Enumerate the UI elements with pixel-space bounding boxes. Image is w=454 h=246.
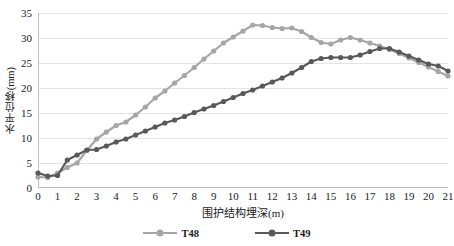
x-axis-tick-label: 0	[35, 190, 41, 202]
data-point	[153, 95, 158, 100]
data-point	[172, 117, 177, 122]
data-point	[250, 22, 255, 27]
x-axis-tick-label: 17	[364, 190, 375, 202]
series-line	[38, 49, 448, 177]
data-point	[231, 34, 236, 39]
data-point	[436, 63, 441, 68]
data-point	[416, 57, 421, 62]
data-point	[319, 56, 324, 61]
data-point	[358, 37, 363, 42]
y-axis-tick-label: 25	[21, 58, 32, 69]
legend-item-T49[interactable]: T49	[255, 228, 311, 239]
data-point	[436, 69, 441, 74]
data-point	[270, 79, 275, 84]
y-axis-tick-label: 5	[27, 158, 33, 169]
data-point	[289, 70, 294, 75]
data-point	[299, 29, 304, 34]
data-point	[260, 23, 265, 28]
legend-label: T48	[181, 228, 199, 239]
data-point	[348, 55, 353, 60]
data-point	[377, 46, 382, 51]
data-point	[35, 170, 40, 175]
y-axis-tick-label: 30	[21, 33, 32, 44]
x-axis-tick-label: 9	[211, 190, 217, 202]
series-T49	[35, 46, 450, 179]
data-point	[319, 40, 324, 45]
data-point	[328, 41, 333, 46]
data-point	[65, 165, 70, 170]
data-point	[133, 112, 138, 117]
data-point	[211, 103, 216, 108]
data-point	[445, 73, 450, 78]
data-point	[45, 173, 50, 178]
x-axis-tick-labels: 0123456789101112131415161718192021	[38, 190, 448, 204]
x-axis-tick-label: 6	[152, 190, 158, 202]
data-point	[192, 65, 197, 70]
x-axis-tick-label: 13	[286, 190, 297, 202]
data-point	[279, 26, 284, 31]
data-point	[182, 73, 187, 78]
data-point	[299, 65, 304, 70]
series-T48	[35, 22, 450, 180]
x-axis-tick-label: 2	[74, 190, 80, 202]
data-point	[309, 59, 314, 64]
data-point	[250, 87, 255, 92]
data-point	[192, 110, 197, 115]
data-point	[201, 106, 206, 111]
y-axis-tick-label: 10	[21, 133, 32, 144]
data-point	[84, 147, 89, 152]
data-point	[74, 152, 79, 157]
chart-legend: T48T49	[0, 224, 454, 242]
x-axis-tick-label: 12	[267, 190, 278, 202]
data-point	[270, 25, 275, 30]
data-point	[211, 48, 216, 53]
x-axis-tick-label: 4	[113, 190, 119, 202]
data-point	[143, 104, 148, 109]
data-point	[240, 91, 245, 96]
legend-item-T48[interactable]: T48	[143, 228, 199, 239]
data-point	[445, 68, 450, 73]
chart-container: 水平位移(mm) 05101520253035 0123456789101112…	[0, 0, 454, 246]
data-point	[104, 143, 109, 148]
x-axis-tick-label: 14	[306, 190, 317, 202]
data-point	[162, 120, 167, 125]
data-point	[94, 136, 99, 141]
data-point	[133, 132, 138, 137]
legend-swatch	[143, 228, 177, 238]
data-point	[289, 25, 294, 30]
data-point	[65, 157, 70, 162]
legend-marker-icon	[157, 230, 164, 237]
data-point	[406, 53, 411, 58]
data-point	[172, 80, 177, 85]
data-point	[114, 139, 119, 144]
data-point	[240, 28, 245, 33]
x-axis-tick-label: 7	[172, 190, 178, 202]
data-point	[94, 147, 99, 152]
x-axis-tick-label: 3	[94, 190, 100, 202]
data-point	[162, 88, 167, 93]
data-point	[426, 61, 431, 66]
y-axis-tick-label: 20	[21, 83, 32, 94]
data-point	[123, 136, 128, 141]
data-point	[309, 35, 314, 40]
data-point	[104, 129, 109, 134]
data-point	[114, 123, 119, 128]
data-point	[231, 95, 236, 100]
x-axis-tick-label: 21	[443, 190, 454, 202]
data-point	[221, 99, 226, 104]
data-point	[348, 35, 353, 40]
data-point	[387, 46, 392, 51]
x-axis-tick-label: 10	[228, 190, 239, 202]
data-point	[260, 83, 265, 88]
y-axis-tick-label: 0	[27, 183, 33, 194]
data-point	[358, 52, 363, 57]
y-axis-tick-labels: 05101520253035	[0, 13, 36, 188]
x-axis-tick-label: 19	[403, 190, 414, 202]
series-plot	[38, 13, 448, 188]
data-point	[279, 75, 284, 80]
data-point	[182, 114, 187, 119]
legend-swatch	[255, 228, 289, 238]
x-axis-tick-label: 1	[55, 190, 61, 202]
data-point	[338, 37, 343, 42]
x-axis-tick-label: 5	[133, 190, 139, 202]
